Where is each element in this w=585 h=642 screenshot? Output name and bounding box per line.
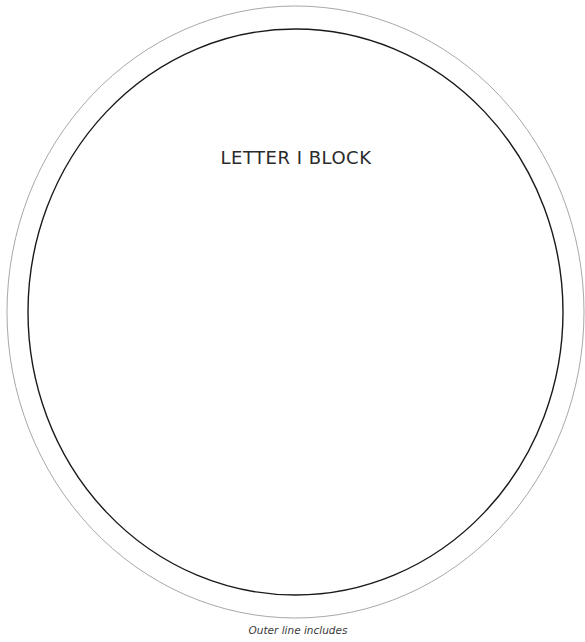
template-title: LETTER I BLOCK xyxy=(0,147,585,168)
outer-cut-line xyxy=(7,6,584,618)
inner-safe-line xyxy=(28,29,563,595)
template-caption: Outer line includes xyxy=(0,624,585,636)
template-outline xyxy=(0,0,585,642)
